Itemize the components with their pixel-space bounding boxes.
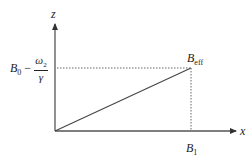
z-value-label: B0 − <box>10 62 31 77</box>
omega-over-gamma-fraction: ω2 γ <box>34 55 48 83</box>
z-axis-label: z <box>51 8 56 20</box>
frac-numerator: ω <box>35 54 43 66</box>
frac-numerator-sub: 2 <box>43 61 47 69</box>
x-value-sub: 1 <box>193 148 197 157</box>
x-value-label: B1 <box>186 142 197 157</box>
minus-sign: − <box>21 61 31 75</box>
frac-denominator: γ <box>34 71 48 83</box>
endpoint-label: Beff <box>187 52 203 67</box>
endpoint-sub: eff <box>194 58 203 67</box>
effective-field-vector <box>55 68 191 131</box>
x-axis-label: x <box>240 125 245 137</box>
